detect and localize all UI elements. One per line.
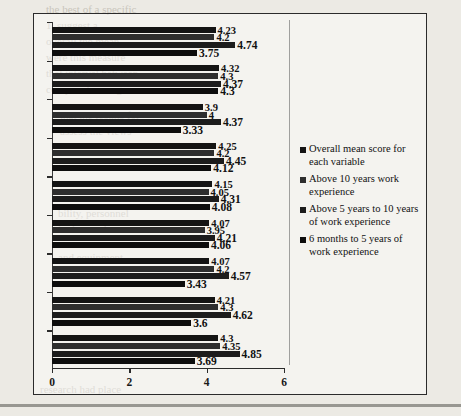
- bar-value-label: 3.43: [187, 278, 207, 290]
- bar-vr1-series0: [52, 335, 218, 341]
- y-axis-tick: [47, 253, 52, 254]
- legend-item[interactable]: Above 5 years to 10 years of work experi…: [300, 203, 424, 228]
- bar-vr9-series1: [52, 34, 214, 40]
- bar-vr6-series0: [52, 143, 216, 149]
- bar-vr4-series1: [52, 227, 205, 233]
- page-bottom-rule: [0, 404, 461, 407]
- bar-vr5-series0: [52, 181, 212, 187]
- bar-vr5-series2: [52, 196, 219, 202]
- bar-vr6-series3: [52, 165, 211, 171]
- bar-vr7-series3: [52, 127, 181, 133]
- x-axis-tick: [284, 368, 285, 373]
- bar-vr5-series1: [52, 189, 209, 195]
- bar-value-label: 4.74: [237, 39, 257, 51]
- bar-value-label: 4.12: [213, 162, 233, 174]
- bar-value-label: 4.85: [242, 348, 262, 360]
- legend-swatch-icon: [300, 147, 306, 153]
- bar-value-label: 3.75: [199, 47, 219, 59]
- legend-item[interactable]: Overall mean score for each variable: [300, 143, 424, 168]
- bar-vr8-series2: [52, 81, 221, 87]
- bar-vr2-series1: [52, 304, 218, 310]
- bar-vr4-series2: [52, 235, 215, 241]
- x-axis-tick: [52, 368, 53, 373]
- x-axis-tick-label: 2: [126, 376, 132, 388]
- y-axis-tick: [47, 99, 52, 100]
- y-axis-tick: [47, 330, 52, 331]
- x-axis-tick-label: 6: [281, 376, 287, 388]
- bar-vr8-series0: [52, 65, 219, 71]
- y-axis-tick: [47, 22, 52, 23]
- chart-legend: Overall mean score for each variableAbov…: [300, 143, 424, 263]
- y-axis-tick: [47, 138, 52, 139]
- bar-vr3-series1: [52, 266, 214, 272]
- bar-vr7-series1: [52, 112, 207, 118]
- y-axis-tick: [47, 215, 52, 216]
- x-axis-tick: [129, 368, 130, 373]
- bar-value-label: 3.6: [193, 317, 207, 329]
- x-axis-tick-label: 4: [204, 376, 210, 388]
- legend-swatch-icon: [300, 237, 306, 243]
- bar-vr5-series3: [52, 204, 210, 210]
- bar-vr7-series0: [52, 104, 203, 110]
- bar-vr1-series1: [52, 343, 220, 349]
- y-axis-tick: [47, 176, 52, 177]
- bar-vr8-series1: [52, 73, 218, 79]
- bar-vr1-series3: [52, 358, 195, 364]
- legend-item-label: Overall mean score for each variable: [309, 143, 424, 168]
- legend-divider: [289, 20, 290, 365]
- bar-vr9-series0: [52, 27, 216, 33]
- y-axis-tick: [47, 61, 52, 62]
- bar-value-label: 3.33: [183, 124, 203, 136]
- x-axis-tick: [207, 368, 208, 373]
- bar-vr3-series3: [52, 281, 185, 287]
- y-axis-tick: [47, 292, 52, 293]
- legend-item-label: 6 months to 5 years of work experience: [309, 233, 424, 258]
- legend-item-label: Above 10 years work experience: [309, 173, 424, 198]
- bar-vr9-series3: [52, 50, 197, 56]
- bar-vr4-series3: [52, 242, 209, 248]
- bar-value-label: 4.57: [231, 270, 251, 282]
- bar-value-label: 4.62: [233, 309, 253, 321]
- plot-box: 4.34.354.853.694.214.34.623.64.074.24.57…: [52, 22, 284, 369]
- bar-value-label: 3.69: [197, 355, 217, 367]
- bar-vr2-series3: [52, 320, 191, 326]
- bar-vr2-series0: [52, 297, 215, 303]
- bar-vr8-series3: [52, 88, 218, 94]
- bar-value-label: 4.3: [220, 85, 234, 97]
- bar-value-label: 4.37: [223, 116, 243, 128]
- bar-vr6-series1: [52, 150, 214, 156]
- legend-item-label: Above 5 years to 10 years of work experi…: [309, 203, 424, 228]
- bar-vr4-series0: [52, 220, 209, 226]
- x-axis-tick-label: 0: [49, 376, 55, 388]
- bar-vr3-series0: [52, 258, 209, 264]
- bar-vr6-series2: [52, 158, 224, 164]
- x-axis-line: [52, 368, 284, 369]
- bar-value-label: 4.08: [212, 201, 232, 213]
- bar-value-label: 4.06: [211, 239, 231, 251]
- legend-swatch-icon: [300, 207, 306, 213]
- legend-item[interactable]: Above 10 years work experience: [300, 173, 424, 198]
- plot-area: 4.34.354.853.694.214.34.623.64.074.24.57…: [52, 22, 284, 369]
- legend-swatch-icon: [300, 177, 306, 183]
- legend-item[interactable]: 6 months to 5 years of work experience: [300, 233, 424, 258]
